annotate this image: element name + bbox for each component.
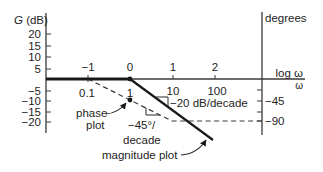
omega-tick-label: 100 xyxy=(207,85,226,97)
phase-slope-label-2: decade xyxy=(123,134,161,146)
left-tick-label: 20 xyxy=(28,28,41,40)
left-tick-label: 5 xyxy=(35,63,41,75)
omega-tick-label: 1 xyxy=(127,87,133,99)
phase-plot-label-2: plot xyxy=(86,119,105,131)
phase-pointer-arrow-icon xyxy=(106,103,126,114)
log-tick-label: −1 xyxy=(81,61,94,73)
magnitude-corner-point xyxy=(128,77,133,82)
log-tick-label: 0 xyxy=(127,61,133,73)
omega-tick-label: 0.1 xyxy=(79,87,95,99)
right-tick-label: −90 xyxy=(265,115,285,127)
magnitude-slope-label: −20 dB/decade xyxy=(170,97,248,109)
log-tick-label: 1 xyxy=(170,61,176,73)
right-axis-title: degrees xyxy=(265,12,307,24)
left-axis: G (dB) 20 15 10 5 −5 −10 −15 −20 xyxy=(14,13,51,133)
phase-slope-label: −45°/ xyxy=(128,119,156,131)
log-tick-label: 2 xyxy=(212,61,218,73)
left-axis-title: G (dB) xyxy=(14,14,48,26)
x-axis-subtitle: ω xyxy=(295,80,303,91)
left-tick-label: 10 xyxy=(28,51,41,63)
x-axis-title: log ω xyxy=(275,67,303,79)
phase-corner-point xyxy=(128,98,133,103)
omega-tick-label: 10 xyxy=(167,85,180,97)
left-tick-label: −20 xyxy=(21,116,41,128)
magnitude-plot-label: magnitude plot xyxy=(102,149,178,161)
magnitude-pointer-arrow-icon xyxy=(181,140,206,155)
right-tick-label: −45 xyxy=(265,95,285,107)
bode-plot: G (dB) 20 15 10 5 −5 −10 −15 −20 degrees… xyxy=(0,0,323,172)
annotations: −20 dB/decade −45°/ decade phase plot ma… xyxy=(76,97,248,161)
phase-plot-label: phase xyxy=(76,107,107,119)
